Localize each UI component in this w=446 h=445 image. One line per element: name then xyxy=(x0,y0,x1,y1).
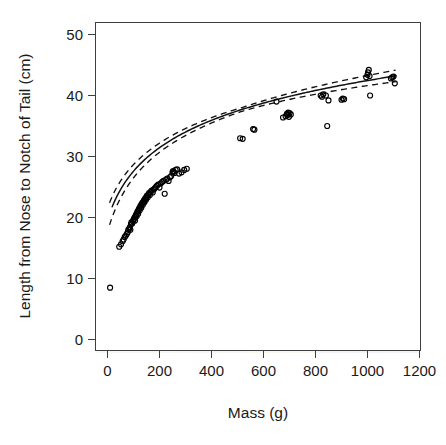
x-tick-label-600: 600 xyxy=(251,362,276,379)
y-tick-label-40: 40 xyxy=(66,87,83,104)
y-tick-label-20: 20 xyxy=(66,209,83,226)
x-tick-label-1000: 1000 xyxy=(351,362,384,379)
x-axis-title: Mass (g) xyxy=(228,404,288,421)
y-tick-label-50: 50 xyxy=(66,26,83,43)
x-tick-label-0: 0 xyxy=(103,362,111,379)
y-axis-title: Length from Nose to Notch of Tail (cm) xyxy=(16,53,33,318)
y-tick-label-30: 30 xyxy=(66,148,83,165)
y-tick-label-10: 10 xyxy=(66,270,83,287)
x-tick-label-200: 200 xyxy=(147,362,172,379)
plot-canvas: 50 40 30 20 10 0 0 200 400 600 800 1000 … xyxy=(0,0,446,445)
scatter-plot-figure: 50 40 30 20 10 0 0 200 400 600 800 1000 … xyxy=(0,0,446,445)
x-tick-label-400: 400 xyxy=(199,362,224,379)
x-tick-label-800: 800 xyxy=(303,362,328,379)
y-tick-label-0: 0 xyxy=(75,331,83,348)
x-tick-label-1200: 1200 xyxy=(403,362,436,379)
